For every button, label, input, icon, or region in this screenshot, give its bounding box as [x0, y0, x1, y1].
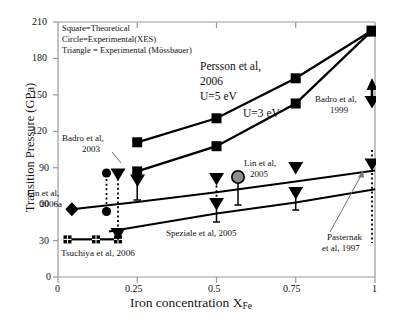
- y-axis-title: Transition Pressure (GPa): [23, 48, 38, 248]
- marker-lin2005-circle: [232, 171, 244, 183]
- x-axis-title: Iron concentration XFe: [130, 295, 252, 311]
- legend-line-2: Circle=Experimental(XES): [62, 35, 156, 45]
- y-tick-210: 210: [32, 16, 47, 27]
- x-axis-title-main: Iron concentration X: [130, 295, 242, 310]
- chart-canvas: [0, 0, 393, 323]
- annotation-badro2003-line2: 2003: [82, 144, 100, 154]
- annotation-persson-line1: Persson et al,: [200, 60, 261, 73]
- y-axis-ticks: [53, 22, 58, 277]
- x-tick-0: 0: [55, 283, 60, 294]
- annotation-lin2005-line1: Lin et al,: [244, 158, 276, 168]
- annotation-pasternak-line2: et al, 1997: [322, 243, 360, 253]
- pasternak-pointer: [330, 170, 364, 232]
- badro2003-pointer: [112, 152, 121, 163]
- annotation-u3ev: U=3 eV: [243, 107, 280, 120]
- x-axis-title-subscript: Fe: [242, 301, 252, 311]
- annotation-lin2006a-line2: 2006a: [40, 199, 62, 209]
- x-tick-025: 0.25: [125, 283, 143, 294]
- annotation-badro1999-line2: 1999: [330, 105, 348, 115]
- marker-top-square: [367, 26, 378, 37]
- x-tick-075: 0.75: [283, 283, 301, 294]
- x-tick-1: 1: [372, 283, 377, 294]
- y-tick-0: 0: [46, 271, 51, 282]
- annotation-badro2003-line1: Badro et al,: [62, 133, 104, 143]
- annotation-badro1999-line1: Badro et al,: [315, 94, 357, 104]
- legend-line-1: Square=Theoretical: [62, 24, 130, 34]
- marker-lin2006a-diamond: [65, 202, 78, 216]
- marker-group-badro2003-circles: [102, 168, 111, 216]
- x-tick-05: 0.5: [208, 283, 221, 294]
- y-tick-30: 30: [39, 235, 49, 246]
- y-tick-90: 90: [39, 162, 49, 173]
- series-line-speziale: [109, 189, 375, 231]
- annotation-persson-line2: 2006: [200, 75, 223, 88]
- annotation-lin2005-line2: 2005: [250, 169, 268, 179]
- annotation-speziale: Speziale et al, 2005: [166, 228, 236, 238]
- annotation-pasternak-line1: Pasternak: [327, 232, 362, 242]
- annotation-persson-line3: U=5 eV: [200, 90, 237, 103]
- legend-line-3: Triangle = Experimental (Mössbauer): [62, 46, 192, 56]
- annotation-tsuchiya: Tsuchiya et al, 2006: [61, 248, 135, 258]
- transition-pressure-chart: Square=Theoretical Circle=Experimental(X…: [0, 0, 393, 323]
- annotation-lin2006a-line1: Lin et al,: [27, 188, 59, 198]
